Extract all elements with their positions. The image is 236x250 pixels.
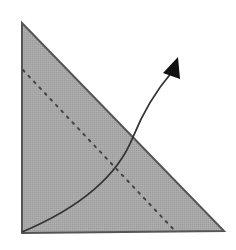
diagram-canvas — [0, 0, 236, 250]
right-triangle-shape — [22, 23, 224, 233]
triangle-diagram — [0, 0, 236, 250]
arrowhead-icon — [163, 57, 180, 79]
